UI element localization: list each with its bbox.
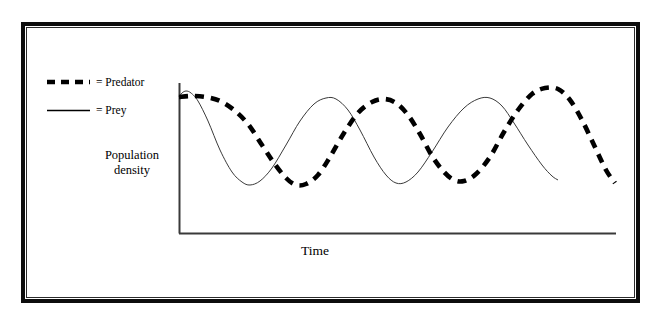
legend-label-prey: = Prey	[96, 104, 126, 117]
y-axis-title-line-2: density	[86, 163, 178, 178]
y-axis-title-line-1: Population	[86, 148, 178, 163]
y-axis-title: Population density	[86, 148, 178, 178]
series-line-predator	[179, 87, 615, 185]
legend-label-predator: = Predator	[96, 76, 144, 89]
x-axis-title: Time	[260, 243, 370, 259]
figure-root: = Predator = Prey Population density Tim…	[0, 0, 663, 321]
